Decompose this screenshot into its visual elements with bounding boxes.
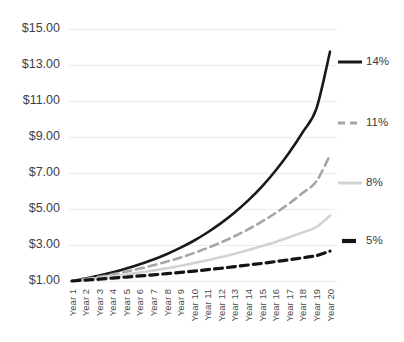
legend-label-5pct: 5% xyxy=(366,234,383,246)
y-tick-label: $15.00 xyxy=(22,21,60,35)
y-tick-label: $5.00 xyxy=(29,201,60,215)
y-tick-label: $1.00 xyxy=(29,273,60,287)
x-tick-label: Year 11 xyxy=(202,289,213,321)
legend-label-14pct: 14% xyxy=(366,55,389,67)
y-tick-label: $9.00 xyxy=(29,129,60,143)
x-tick-label: Year 20 xyxy=(325,289,336,321)
compound-growth-line-chart: $1.00$3.00$5.00$7.00$9.00$11.00$13.00$15… xyxy=(0,0,404,342)
y-tick-label: $7.00 xyxy=(29,165,60,179)
y-tick-label: $3.00 xyxy=(29,237,60,251)
x-tick-label: Year 15 xyxy=(257,289,268,321)
x-tick-label: Year 19 xyxy=(311,289,322,321)
y-axis-tick-labels: $1.00$3.00$5.00$7.00$9.00$11.00$13.00$15… xyxy=(22,21,60,287)
x-tick-label: Year 1 xyxy=(67,289,78,316)
x-axis-tick-labels: Year 1Year 2Year 3Year 4Year 5Year 6Year… xyxy=(67,289,336,321)
x-tick-label: Year 10 xyxy=(189,289,200,321)
x-tick-label: Year 2 xyxy=(80,289,91,316)
x-tick-label: Year 14 xyxy=(243,289,254,321)
x-tick-label: Year 4 xyxy=(107,289,118,316)
legend-label-8pct: 8% xyxy=(366,176,383,188)
x-tick-label: Year 12 xyxy=(216,289,227,321)
x-tick-label: Year 7 xyxy=(148,289,159,316)
x-tick-label: Year 18 xyxy=(297,289,308,321)
legend-label-11pct: 11% xyxy=(366,116,388,128)
x-tick-label: Year 17 xyxy=(284,289,295,321)
x-tick-label: Year 8 xyxy=(162,289,173,316)
gridlines xyxy=(68,29,337,281)
x-tick-label: Year 3 xyxy=(94,289,105,316)
series-lines xyxy=(72,52,330,281)
x-tick-label: Year 5 xyxy=(121,289,132,316)
y-tick-label: $13.00 xyxy=(22,57,60,71)
series-legend: 14%11%8%5% xyxy=(338,55,389,246)
chart-canvas: $1.00$3.00$5.00$7.00$9.00$11.00$13.00$15… xyxy=(0,0,404,342)
x-tick-label: Year 16 xyxy=(270,289,281,321)
x-tick-label: Year 13 xyxy=(229,289,240,321)
y-tick-label: $11.00 xyxy=(23,93,60,107)
series-line-14pct xyxy=(72,52,330,281)
x-tick-label: Year 6 xyxy=(134,289,145,316)
x-tick-label: Year 9 xyxy=(175,289,186,316)
